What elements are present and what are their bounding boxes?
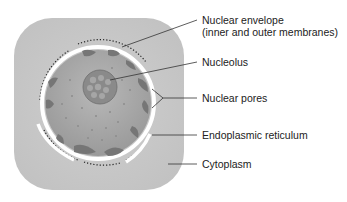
label-nuclear-pores: Nuclear pores — [202, 92, 267, 104]
label-endoplasmic-reticulum: Endoplasmic reticulum — [202, 129, 308, 141]
label-cytoplasm: Cytoplasm — [202, 158, 252, 170]
nucleolus-shape — [83, 70, 117, 104]
label-nuclear-envelope: Nuclear envelope (inner and outer membra… — [202, 14, 338, 38]
label-nucleolus: Nucleolus — [202, 56, 248, 68]
